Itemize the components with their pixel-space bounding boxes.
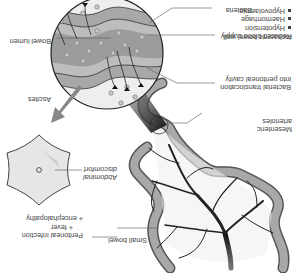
rotated-diagram-stage: Reduced blood supply Hypotension Haemorr… (0, 0, 297, 273)
peritoneal-infection-label: Peritoneal infection + fever + encephalo… (22, 214, 83, 239)
small-bowel-label: Small bowel (108, 236, 147, 244)
peritoneal-line-2: + fever (22, 222, 83, 230)
mesenteric-arterioles-label: Mesenteric arterioles (257, 116, 292, 133)
peritoneal-line-3: + encephalopathy (22, 214, 83, 222)
bacteria-label: Bacteria (226, 6, 252, 14)
abdominal-discomfort-label: Abdominal discomfort (83, 164, 117, 181)
bowel-lumen-label: Bowel lumen (10, 37, 51, 45)
discomfort-line-1: Abdominal (83, 173, 117, 181)
magnified-bowel-section (37, 0, 177, 113)
ascites-label: Ascites (28, 95, 51, 103)
peritoneal-line-1: Peritoneal infection (22, 231, 83, 239)
bullet-hypotension: Hypotension (221, 23, 285, 31)
bullet-haemorrhage: Haemorrhage (221, 15, 285, 23)
translocation-line-2: into peritoneal cavity (220, 74, 291, 82)
mesenteric-line-2: arterioles (257, 116, 292, 124)
translocation-line-1: Bacterial translocation (220, 83, 291, 91)
ischaemic-bowel-wall-label: Ischaemic bowel wall (223, 33, 291, 41)
abdomen-hexagon (7, 135, 82, 205)
bacterial-translocation-label: Bacterial translocation into peritoneal … (220, 74, 291, 91)
discomfort-line-2: discomfort (83, 164, 117, 172)
mesenteric-line-1: Mesenteric (257, 125, 292, 133)
